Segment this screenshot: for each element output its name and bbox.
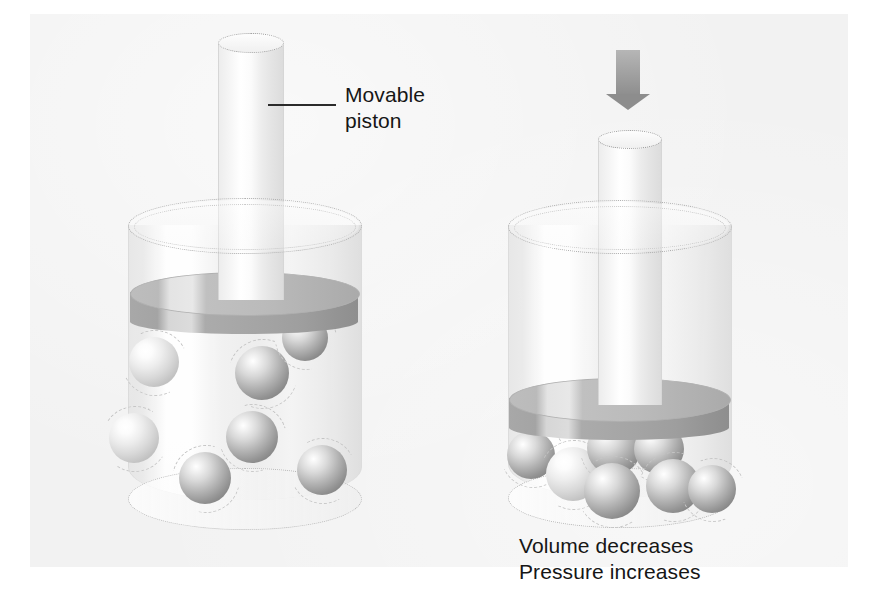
down-arrow-icon	[616, 50, 640, 96]
cylinder-rim-inner-left	[134, 204, 356, 250]
figure-canvas: Movable piston	[0, 0, 885, 606]
gas-molecule	[226, 411, 278, 463]
gas-molecule	[179, 452, 231, 504]
piston-rod-cap-right	[598, 130, 662, 149]
leader-line	[268, 104, 336, 106]
compressed-gas-panel	[440, 0, 885, 560]
piston-rod-right[interactable]	[598, 140, 662, 405]
gas-molecule	[129, 337, 179, 387]
gas-molecule	[109, 413, 159, 463]
gas-molecule	[584, 463, 640, 519]
cylinder-rim-inner-right	[514, 206, 726, 250]
movable-piston-label: Movable piston	[345, 82, 425, 134]
piston-rod-cap-left	[218, 33, 284, 53]
gas-molecule	[297, 445, 347, 495]
gas-molecule	[688, 465, 736, 513]
piston-rod-left[interactable]	[218, 44, 284, 300]
down-arrow-head-icon	[606, 94, 650, 110]
compression-result-label: Volume decreases Pressure increases	[519, 533, 701, 585]
